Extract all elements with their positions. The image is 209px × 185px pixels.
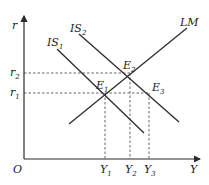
svg-text:E3: E3 [151, 81, 165, 96]
is1-label: IS1 [46, 36, 63, 51]
y1-label: Y1 [100, 163, 112, 178]
lm-curve [69, 28, 187, 124]
svg-text:Y2: Y2 [125, 163, 137, 178]
r1-label: r1 [10, 86, 20, 101]
origin-label: O [13, 163, 22, 176]
e3-label: E3 [151, 81, 165, 96]
svg-text:Y3: Y3 [144, 163, 156, 178]
svg-text:E2: E2 [122, 59, 136, 74]
svg-text:IS2: IS2 [69, 22, 87, 37]
y2-label: Y2 [125, 163, 137, 178]
svg-text:LM: LM [179, 16, 199, 29]
svg-text:Y1: Y1 [100, 163, 112, 178]
y-axis-label: r [12, 19, 18, 32]
svg-text:r2: r2 [10, 66, 20, 81]
r2-label: r2 [10, 66, 20, 81]
lm-label: LM [179, 16, 199, 29]
is2-label: IS2 [69, 22, 87, 37]
svg-text:IS1: IS1 [46, 36, 63, 51]
y3-label: Y3 [144, 163, 156, 178]
guide-lines [24, 73, 149, 159]
svg-text:r1: r1 [10, 86, 20, 101]
svg-text:E1: E1 [95, 79, 109, 94]
curves [57, 28, 187, 133]
x-axis-label: Y [190, 163, 199, 176]
is-lm-diagram: r Y O r2 r1 Y1 Y2 Y3 IS1 IS2 LM E1 E2 E3 [0, 0, 209, 185]
e1-label: E1 [95, 79, 109, 94]
e2-label: E2 [122, 59, 136, 74]
